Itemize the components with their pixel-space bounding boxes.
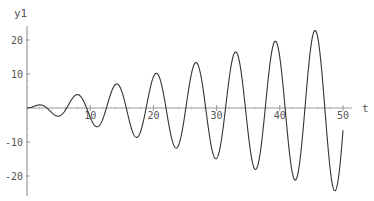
x-axis-label: t (362, 102, 369, 115)
y-axis-label: y1 (14, 7, 27, 20)
x-tick-label: 50 (337, 110, 349, 121)
x-tick-label: 40 (274, 110, 286, 121)
x-tick-label: 10 (84, 110, 96, 121)
x-tick-label: 20 (147, 110, 159, 121)
y-tick-label: 10 (11, 69, 23, 80)
y-tick-label: -20 (5, 171, 23, 182)
series-line-y1 (27, 31, 343, 191)
chart-plot-area: 1020304050 -20-101020 t y1 (0, 0, 374, 201)
y-tick-label: -10 (5, 137, 23, 148)
y-axis-ticks: -20-101020 (5, 26, 30, 189)
y-tick-label: 20 (11, 35, 23, 46)
x-tick-label: 30 (211, 110, 223, 121)
